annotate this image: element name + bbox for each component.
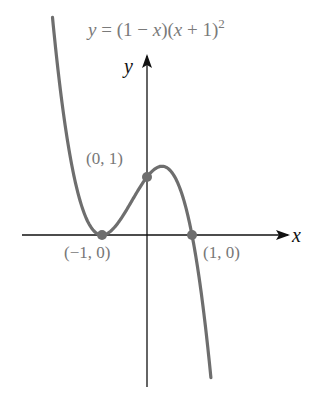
y-axis-label: y bbox=[122, 55, 133, 78]
point-1-0-marker bbox=[187, 230, 197, 240]
point-neg1-0-label: (−1, 0) bbox=[64, 243, 110, 262]
point-1-0-label: (1, 0) bbox=[203, 243, 240, 262]
point-0-1-marker bbox=[142, 172, 152, 182]
x-axis-label: x bbox=[291, 224, 301, 246]
plot-area: y = (1 − x)(x + 1)2 x y (0, 1) (−1, 0) (… bbox=[0, 0, 317, 397]
point-0-1-label: (0, 1) bbox=[86, 149, 123, 168]
point-neg1-0-marker bbox=[97, 230, 107, 240]
chart-title: y = (1 − x)(x + 1)2 bbox=[86, 16, 225, 41]
